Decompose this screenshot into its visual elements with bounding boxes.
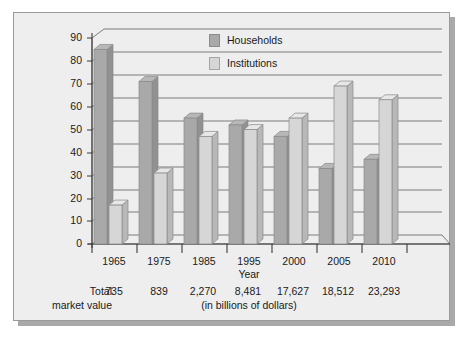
bar-1985-institutions [199, 131, 218, 244]
households-swatch [209, 34, 220, 47]
total-value-1975: 839 [134, 286, 184, 297]
total-value-2010: 23,293 [359, 286, 409, 297]
bar-1965-institutions [109, 200, 128, 244]
y-tick-label: 40 [60, 147, 82, 158]
total-value-2005: 18,512 [313, 286, 363, 297]
legend-label-households: Households [227, 35, 282, 46]
bar-2010-institutions [379, 95, 398, 244]
y-tick-label: 50 [60, 124, 82, 135]
institutions-swatch [209, 57, 220, 70]
x-tick-label-1965: 1965 [91, 256, 137, 267]
y-tick-label: 30 [60, 170, 82, 181]
bars-layer [94, 44, 398, 244]
y-axis-ticks [87, 33, 92, 248]
y-tick-label: 20 [60, 193, 82, 204]
total-value-2000: 17,627 [268, 286, 318, 297]
y-tick-label: 10 [60, 215, 82, 226]
total-value-1965: 735 [89, 286, 139, 297]
y-tick-label: 60 [60, 101, 82, 112]
x-tick-label-2000: 2000 [271, 256, 317, 267]
bar-1995-institutions [244, 125, 263, 244]
bar-1975-institutions [154, 168, 173, 244]
x-axis [88, 244, 450, 253]
x-tick-label-2010: 2010 [361, 256, 407, 267]
x-tick-label-2005: 2005 [316, 256, 362, 267]
total-value-1995: 8,481 [223, 286, 273, 297]
y-tick-label: 90 [60, 32, 82, 43]
total-value-1985: 2,270 [178, 286, 228, 297]
x-tick-label-1975: 1975 [136, 256, 182, 267]
bar-2000-institutions [289, 113, 308, 244]
chart-card: 90 80 70 60 50 40 30 20 10 0 1965 1975 1… [13, 12, 450, 321]
y-tick-label: 0 [60, 238, 82, 249]
x-axis-title: Year [219, 269, 279, 280]
x-tick-label-1985: 1985 [181, 256, 227, 267]
units-note: (in billions of dollars) [169, 300, 329, 311]
y-tick-label: 80 [60, 55, 82, 66]
total-market-value-label-line2: market value [24, 300, 112, 311]
x-tick-label-1995: 1995 [226, 256, 272, 267]
legend-label-institutions: Institutions [227, 58, 277, 69]
chart-screenshot: 90 80 70 60 50 40 30 20 10 0 1965 1975 1… [0, 0, 469, 341]
bar-2005-institutions [334, 81, 353, 244]
y-tick-label: 70 [60, 78, 82, 89]
